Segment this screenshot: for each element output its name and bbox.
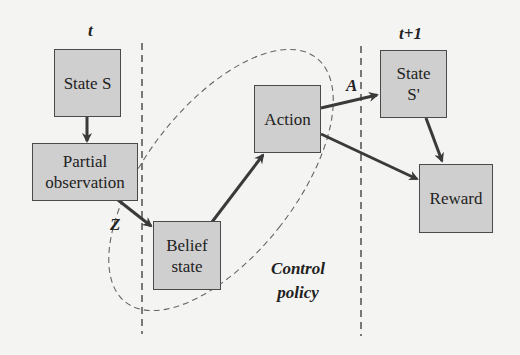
control-policy-label: Control policy [262, 257, 334, 305]
belief-state-line2: state [171, 256, 202, 277]
state-s-prime-line1: State [397, 63, 431, 84]
state-s-node: State S [54, 49, 121, 117]
action-label: Action [264, 109, 310, 130]
belief-state-line1: Belief [166, 235, 208, 256]
partial-observation-line2: observation [45, 172, 124, 193]
reward-label: Reward [430, 188, 483, 209]
edge-label-z: Z [110, 215, 120, 235]
time-label-t-plus-1: t+1 [399, 24, 422, 44]
partial-observation-line1: Partial [63, 151, 107, 172]
reward-node: Reward [419, 164, 493, 233]
arrow-observation-to-belief [118, 200, 151, 226]
partial-observation-node: Partial observation [32, 143, 138, 201]
state-s-label: State S [64, 73, 112, 94]
edge-label-a: A [346, 76, 357, 96]
arrow-belief-to-action [212, 155, 263, 222]
time-label-t: t [88, 21, 93, 41]
arrow-state-prime-to-reward [426, 118, 442, 161]
control-policy-line1: Control [262, 257, 334, 281]
arrow-action-to-reward [321, 134, 417, 179]
arrow-action-to-state-prime [321, 95, 377, 108]
state-s-prime-line2: S' [407, 84, 420, 105]
state-s-prime-node: State S' [380, 50, 447, 118]
action-node: Action [254, 85, 321, 153]
control-policy-line2: policy [262, 281, 334, 305]
belief-state-node: Belief state [153, 221, 221, 290]
